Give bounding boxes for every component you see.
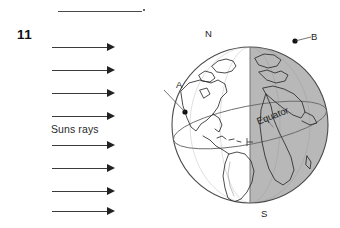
arrow-shaft xyxy=(52,47,109,48)
arrow-head-icon xyxy=(107,66,115,74)
south-pole-label: S xyxy=(261,208,267,219)
arrow-shaft xyxy=(52,93,109,94)
point-b-leader-line xyxy=(295,37,311,41)
point-a-label: A xyxy=(176,79,182,90)
header-period-mark xyxy=(143,9,145,11)
arrow-head-icon xyxy=(107,141,115,149)
arrow-head-icon xyxy=(107,164,115,172)
worksheet-page: 11 Suns rays xyxy=(0,0,340,228)
night-hemisphere-shading xyxy=(250,28,340,226)
arrow-shaft xyxy=(52,116,109,117)
suns-rays-label: Suns rays xyxy=(51,123,99,135)
arrow-head-icon xyxy=(107,43,115,51)
arrow-head-icon xyxy=(107,207,115,215)
arrow-head-icon xyxy=(107,112,115,120)
header-answer-rule xyxy=(58,11,142,12)
arrow-shaft xyxy=(52,191,109,192)
arrow-head-icon xyxy=(107,89,115,97)
point-a-leader-line xyxy=(164,90,185,112)
arrow-shaft xyxy=(52,211,109,212)
coastlines-americas xyxy=(181,59,254,202)
arrow-shaft xyxy=(52,168,109,169)
arrow-head-icon xyxy=(107,187,115,195)
arrow-shaft xyxy=(52,70,109,71)
point-b-label: B xyxy=(311,31,317,42)
arrow-shaft xyxy=(52,145,109,146)
north-pole-label: N xyxy=(205,28,212,39)
question-number: 11 xyxy=(17,28,32,42)
earth-globe-diagram xyxy=(155,28,340,226)
globe-svg xyxy=(155,28,340,226)
